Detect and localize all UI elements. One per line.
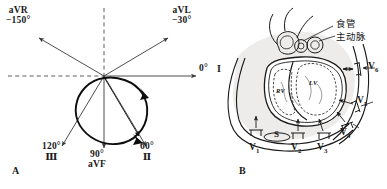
axis-avr [39, 38, 104, 76]
label-lead-ii-roman: Ⅱ [140, 152, 154, 163]
panel-b-caption: B [239, 166, 246, 177]
label-avl-group: aVL −30° [172, 6, 192, 26]
label-v6-letter: V [368, 61, 375, 71]
loop-arrow-upper-right [140, 88, 149, 100]
label-v2-letter: V [291, 142, 298, 152]
panel-b-chest-cross-section: 0° I [193, 0, 387, 189]
label-v5-sub: 5 [364, 100, 368, 107]
label-aorta: 主动脉 [336, 32, 367, 42]
figure-root: aVR −150° aVL −30° 120° Ⅲ 90° aVF 60° Ⅱ … [0, 0, 387, 189]
label-lead-i-angle: 0° [199, 64, 208, 74]
qrs-vector-loop [76, 78, 148, 145]
vertebra-process-mid [284, 8, 293, 31]
label-v1: V1 [249, 143, 260, 154]
label-lead-i-roman: I [217, 64, 221, 75]
label-v4-sub: 4 [347, 132, 351, 139]
panel-a-hexaxial-diagram: aVR −150° aVL −30° 120° Ⅲ 90° aVF 60° Ⅱ … [0, 0, 200, 189]
label-avf-group: 90° aVF [88, 150, 106, 170]
axis-lead-ii [104, 76, 146, 146]
axis-lead-iii [62, 76, 104, 146]
label-v5: V5 [357, 96, 368, 107]
label-avr-angle: −150° [6, 16, 30, 26]
label-avl-angle: −30° [172, 16, 192, 26]
panel-a-caption: A [12, 166, 19, 177]
label-left-ventricle: LV [309, 80, 317, 87]
label-esophagus: 食管 [336, 19, 356, 29]
label-avr-group: aVR −150° [6, 6, 30, 26]
label-v1-sub: 1 [256, 147, 260, 154]
label-v2-sub: 2 [298, 147, 302, 154]
label-right-ventricle: RV [276, 88, 285, 95]
label-avf-lead: aVF [88, 160, 106, 170]
axis-avl [104, 38, 168, 76]
label-v1-letter: V [249, 142, 256, 152]
label-v4-letter: V [340, 127, 347, 137]
label-v5-letter: V [357, 95, 364, 105]
label-v3-sub: 3 [324, 147, 328, 154]
label-lead-iii-roman: Ⅲ [42, 152, 61, 163]
label-v6-sub: 6 [375, 66, 379, 73]
label-lead-iii-group: 120° Ⅲ [42, 142, 61, 162]
label-lead-ii-group: 60° Ⅱ [140, 142, 154, 162]
label-v2: V2 [291, 143, 302, 154]
mean-qrs-vector [104, 77, 139, 136]
label-sternum: S [274, 130, 279, 139]
label-v4: V4 [340, 128, 351, 139]
label-v3: V3 [317, 143, 328, 154]
label-v6: V6 [368, 62, 379, 73]
label-v3-letter: V [317, 142, 324, 152]
